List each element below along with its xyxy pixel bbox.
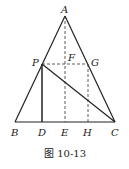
segment-AC	[65, 16, 115, 122]
label-H: H	[82, 127, 92, 138]
label-E: E	[60, 127, 69, 138]
label-D: D	[37, 127, 46, 138]
segment-PC	[42, 64, 115, 122]
label-C: C	[111, 127, 119, 138]
segment-AB	[15, 16, 65, 122]
label-P: P	[31, 57, 39, 68]
label-B: B	[10, 127, 18, 138]
figure-caption: 图 10-13	[44, 148, 86, 159]
label-A: A	[60, 4, 68, 15]
label-G: G	[91, 57, 99, 68]
geometry-figure: A P F G B D E H C 图 10-13	[0, 0, 129, 169]
label-F: F	[67, 52, 76, 63]
